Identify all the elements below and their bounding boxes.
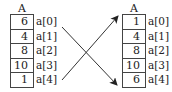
arrow-a4-to-a0 — [62, 16, 118, 80]
arrow-a0-to-a4 — [62, 27, 117, 85]
swap-arrows — [0, 0, 172, 92]
